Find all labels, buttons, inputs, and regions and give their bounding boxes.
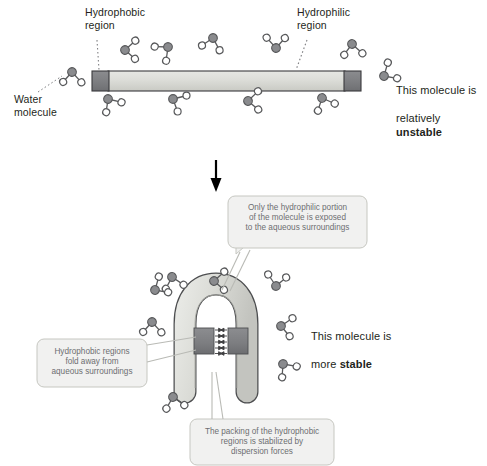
water-molecule	[118, 36, 148, 66]
water-molecule	[97, 91, 127, 121]
conclusion-stable-emphasis: stable	[340, 358, 372, 370]
conclusion-unstable-line1: This molecule is	[396, 83, 487, 97]
conclusion-unstable-line2: relatively unstable	[396, 111, 487, 139]
water-molecule	[169, 92, 190, 115]
label-water-molecule: Water molecule	[14, 93, 57, 119]
conclusion-stable-prefix: more	[311, 358, 340, 370]
water-molecule	[273, 356, 302, 386]
water-molecule	[275, 314, 303, 343]
conclusion-stable-line1: This molecule is	[311, 329, 391, 343]
water-molecule	[56, 65, 86, 95]
water-molecule-group-bottom	[97, 87, 340, 122]
water-molecule	[147, 37, 176, 65]
leader-hydrophobic	[97, 40, 99, 70]
conclusion-stable-line2: more stable	[311, 357, 391, 371]
water-molecule	[264, 265, 293, 293]
label-hydrophobic-region: Hydrophobic region	[85, 6, 145, 32]
callout-text-hydrophobic-fold: Hydrophobic regions fold away from aqueo…	[37, 347, 147, 378]
top-molecule-bar	[92, 71, 361, 91]
conclusion-unstable: This molecule is relatively unstable	[396, 69, 487, 153]
callout-text-dispersion-forces: The packing of the hydrophobic regions i…	[190, 427, 334, 458]
dispersion-force-arrows	[215, 328, 227, 355]
hydrophobic-block-right	[228, 328, 248, 354]
label-hydrophilic-region: Hydrophilic region	[297, 6, 350, 32]
diagram-canvas: Hydrophobic region Hydrophilic region Wa…	[0, 0, 487, 466]
hydrophobic-block-left	[194, 328, 214, 354]
leader-hydrophilic	[296, 40, 307, 70]
conclusion-unstable-emphasis: unstable	[396, 126, 442, 138]
water-molecule	[196, 32, 223, 58]
leader-water-molecule	[38, 76, 62, 92]
hydrophobic-cap-right	[344, 71, 361, 91]
water-molecule	[262, 25, 292, 55]
hydrophobic-cap-left	[92, 71, 109, 91]
conclusion-unstable-prefix: relatively	[396, 112, 440, 124]
callout-text-hydrophilic-exposure: Only the hydrophilic portion of the mole…	[228, 203, 367, 234]
water-molecule	[309, 90, 340, 121]
hydrophilic-segment	[108, 71, 345, 91]
down-arrow-icon	[211, 160, 222, 192]
conclusion-stable: This molecule is more stable	[311, 315, 391, 385]
water-molecule	[336, 37, 367, 67]
